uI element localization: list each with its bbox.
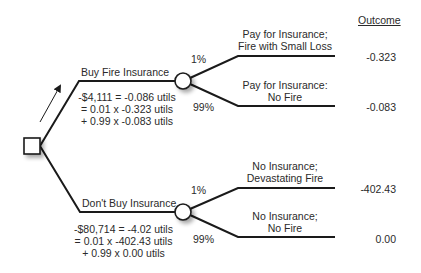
calc-line: + 0.99 x 0.00 utils (66, 247, 181, 259)
calc-line: + 0.99 x -0.083 utils (72, 115, 182, 127)
calc-line: -$4,111 = -0.086 utils (72, 91, 182, 103)
outcome-label: Fire with Small Loss (230, 40, 340, 52)
outcome-label: Pay for Insurance: (230, 79, 340, 91)
calc-line: = 0.01 x -402.43 utils (66, 235, 181, 247)
probability-label: 1% (191, 184, 206, 196)
outcome-label: Devastating Fire (230, 172, 340, 184)
decision-label-buy: Buy Fire Insurance (81, 66, 169, 78)
outcome-label: No Insurance; (230, 160, 340, 172)
branch-devastating-fire (190, 188, 335, 209)
calc-line: = 0.01 x -0.323 utils (72, 103, 182, 115)
probability-label: 99% (193, 101, 214, 113)
outcome-value: 0.00 (350, 233, 396, 245)
outcome-label: No Fire (230, 91, 340, 103)
outcome-label: No Fire (230, 222, 340, 234)
chance-node-icon (175, 73, 191, 89)
chance-node-icon (175, 204, 191, 220)
probability-label: 99% (193, 233, 214, 245)
branch-fire-small-loss (190, 56, 335, 78)
outcome-header: Outcome (358, 14, 401, 26)
outcome-value: -0.323 (350, 51, 396, 63)
outcome-label: Pay for Insurance; (230, 28, 340, 40)
outcome-label: No Insurance; (230, 210, 340, 222)
decision-node-icon (24, 138, 40, 154)
outcome-value: -402.43 (350, 183, 396, 195)
probability-label: 1% (191, 53, 206, 65)
calc-line: -$80,714 = -4.02 utils (66, 223, 181, 235)
outcome-value: -0.083 (350, 101, 396, 113)
decision-label-dont-buy: Don't Buy Insurance (82, 197, 176, 209)
